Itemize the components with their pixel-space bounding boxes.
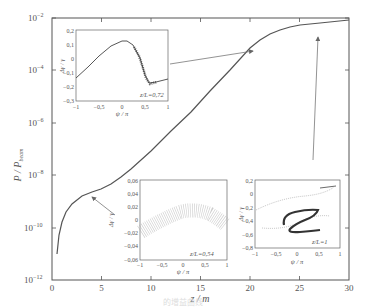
svg-text:0: 0 [296,251,299,257]
svg-text:10−12: 10−12 [24,274,42,285]
x-tick-labels: 0 5 10 15 20 25 30 [50,283,354,293]
svg-text:−1: −1 [73,104,79,110]
svg-text:−1: −1 [252,251,258,257]
svg-text:ψ / π: ψ / π [116,110,129,117]
svg-text:−0,2: −0,2 [63,84,74,90]
arrow-inset-072 [170,51,253,64]
svg-text:z/L=1: z/L=1 [311,238,328,245]
figure-caption: 的增益曲线 [0,296,365,307]
svg-text:15: 15 [196,283,206,293]
svg-text:P / Pbeam: P / Pbeam [12,148,24,182]
svg-text:0,04: 0,04 [128,191,139,197]
svg-text:0: 0 [50,283,55,293]
y-axis-label: P / Pbeam [12,148,24,182]
svg-text:0,2: 0,2 [67,28,75,34]
svg-text:0,5: 0,5 [315,251,323,257]
svg-text:5: 5 [99,283,104,293]
svg-text:−1: −1 [137,262,143,268]
svg-text:10: 10 [147,283,157,293]
svg-text:1: 1 [226,262,229,268]
arrow-inset-1 [313,37,318,160]
svg-text:−0,6: −0,6 [242,232,253,238]
svg-text:−0,04: −0,04 [124,243,138,249]
y-tick-labels: 10−2 10−4 10−6 10−8 10−10 10−12 [24,12,43,285]
svg-text:10−2: 10−2 [28,12,43,23]
svg-text:1: 1 [167,104,170,110]
svg-text:20: 20 [246,283,256,293]
svg-text:z/L=0,72: z/L=0,72 [139,91,164,98]
svg-text:−0,5: −0,5 [94,104,105,110]
svg-text:0: 0 [135,217,138,223]
svg-text:0: 0 [250,191,253,197]
svg-text:10−4: 10−4 [28,64,43,75]
svg-text:0,02: 0,02 [128,204,139,210]
svg-text:0,06: 0,06 [128,178,139,184]
arrow-inset-054 [92,197,115,215]
inset-054: 0,06 0,04 0,02 0 −0,02 −0,04 −0,06 −1 −0… [107,178,229,275]
svg-text:10−6: 10−6 [28,117,43,128]
chart-canvas: 10−2 10−4 10−6 10−8 10−10 10−12 0 5 10 1… [0,0,365,308]
svg-text:30: 30 [345,283,355,293]
svg-text:0,2: 0,2 [246,178,254,184]
inset-1: 0,2 0 −0,2 −0,4 −0,6 −0,8 −1 −0,5 0 0,5 … [237,178,342,265]
svg-text:10−10: 10−10 [24,222,42,233]
svg-text:−0,5: −0,5 [157,262,168,268]
svg-text:0: 0 [71,56,74,62]
svg-text:1: 1 [339,251,342,257]
svg-text:0,5: 0,5 [201,262,209,268]
svg-text:0,1: 0,1 [67,42,75,48]
inset-072: 0,2 0,1 0 −0,1 −0,2 −0,3 −1 −0,5 0 0,5 1… [58,28,170,117]
svg-text:ψ / π: ψ / π [177,268,190,275]
svg-text:−0,02: −0,02 [124,230,138,236]
svg-text:25: 25 [295,283,305,293]
svg-text:ψ / π: ψ / π [291,258,304,265]
svg-text:Δγ / γ: Δγ / γ [107,213,114,228]
svg-text:Δγ / γ: Δγ / γ [237,207,244,222]
svg-text:−0,5: −0,5 [271,251,282,257]
svg-text:10−8: 10−8 [28,169,43,180]
svg-text:0,5: 0,5 [141,104,149,110]
svg-text:Δγ / γ: Δγ / γ [58,59,65,74]
svg-text:z/L=0,54: z/L=0,54 [189,250,214,257]
